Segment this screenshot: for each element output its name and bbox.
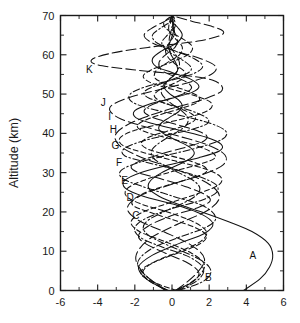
y-axis-title: Altitude (km) xyxy=(7,118,21,188)
curve-label-G: G xyxy=(111,140,119,151)
y-tick-label: 10 xyxy=(42,245,54,257)
y-tick-label: 70 xyxy=(42,10,54,22)
chart-figure: Altitude (km) -6-4-20246 010203040506070… xyxy=(0,0,300,323)
curve-label-B: B xyxy=(205,272,212,283)
curve-label-E: E xyxy=(121,175,128,186)
x-tick-label: -4 xyxy=(93,296,103,308)
x-tick-label: 2 xyxy=(206,296,212,308)
curve-label-I: I xyxy=(108,111,111,122)
y-axis-title-text: Altitude (km) xyxy=(7,118,21,188)
curve-label-D: D xyxy=(127,192,134,203)
altitude-profile-chart: Altitude (km) -6-4-20246 010203040506070… xyxy=(0,0,300,323)
x-tick-label: 0 xyxy=(169,296,175,308)
y-tick-label: 30 xyxy=(42,167,54,179)
x-tick-label: 6 xyxy=(280,296,286,308)
y-tick-label: 0 xyxy=(48,285,54,297)
y-tick-label: 40 xyxy=(42,127,54,139)
x-tick-label: -6 xyxy=(56,296,66,308)
curve-label-K: K xyxy=(86,64,93,75)
curve-label-C: C xyxy=(132,210,139,221)
y-tick-label: 20 xyxy=(42,206,54,218)
curve-label-J: J xyxy=(101,97,106,108)
curve-label-A: A xyxy=(250,250,257,261)
curve-label-H: H xyxy=(110,124,117,135)
curve-label-F: F xyxy=(116,157,122,168)
x-tick-label: -2 xyxy=(130,296,140,308)
y-tick-label: 60 xyxy=(42,49,54,61)
y-tick-label: 50 xyxy=(42,88,54,100)
x-tick-label: 4 xyxy=(243,296,249,308)
